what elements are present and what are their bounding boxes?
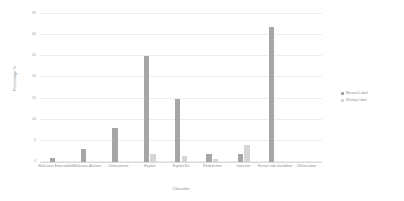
x-axis-line: [40, 162, 322, 163]
y-axis-tick-label: 15: [32, 97, 36, 101]
legend-item[interactable]: Wrong Label: [341, 99, 401, 103]
legend-swatch-icon: [341, 92, 344, 95]
bar-group: [259, 14, 290, 162]
x-axis-tick-label: Obfuscation: [285, 164, 328, 169]
y-axis-tick-label: 25: [32, 54, 36, 58]
bar-group: [134, 14, 165, 162]
bar: [150, 154, 156, 162]
bar: [112, 128, 118, 162]
bar-group: [228, 14, 259, 162]
bar: [269, 27, 275, 162]
bar-group: [40, 14, 71, 162]
x-axis-tick-labels: Malicious ExecutableMalicious ArchiveDef…: [40, 164, 322, 186]
bar: [244, 145, 250, 162]
bar-group: [291, 14, 322, 162]
bar-chart: 05101520253035 Percentage % Malicious Ex…: [0, 0, 404, 201]
bar: [238, 154, 244, 162]
bar: [175, 99, 181, 162]
bar-group: [165, 14, 196, 162]
plot-area: [40, 14, 322, 162]
legend-item[interactable]: Missed Label: [341, 92, 401, 96]
x-axis-title: Classifier: [40, 186, 322, 191]
y-axis-tick-labels: 05101520253035: [22, 0, 36, 201]
bar: [81, 149, 87, 162]
bar-group: [103, 14, 134, 162]
y-axis-tick-label: 20: [32, 76, 36, 80]
y-axis-tick-label: 5: [34, 139, 36, 143]
legend-swatch-icon: [341, 99, 344, 102]
y-axis-tick-label: 30: [32, 33, 36, 37]
bar-group: [197, 14, 228, 162]
legend-label: Wrong Label: [346, 99, 367, 103]
y-axis-tick-label: 10: [32, 118, 36, 122]
legend-label: Missed Label: [346, 92, 368, 96]
bar-group: [71, 14, 102, 162]
bar: [144, 56, 150, 162]
chart-legend: Missed LabelWrong Label: [341, 92, 401, 105]
bar: [206, 154, 212, 162]
y-axis-tick-label: 35: [32, 12, 36, 16]
y-axis-title: Percentage %: [12, 49, 17, 109]
